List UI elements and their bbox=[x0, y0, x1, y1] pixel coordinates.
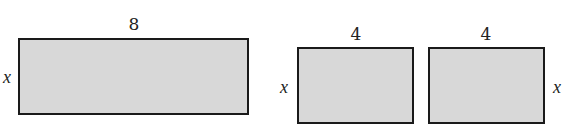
width-label-4-left: 4 bbox=[351, 26, 362, 43]
height-label-x-right: x bbox=[553, 78, 561, 96]
height-label-x-left: x bbox=[280, 78, 288, 96]
rectangle-4-by-x-right bbox=[428, 47, 545, 124]
rectangle-4-by-x-left bbox=[297, 47, 414, 124]
width-label-8: 8 bbox=[129, 16, 140, 33]
rectangle-8-by-x bbox=[18, 38, 249, 115]
height-label-x-large: x bbox=[3, 68, 11, 86]
width-label-4-right: 4 bbox=[481, 26, 492, 43]
